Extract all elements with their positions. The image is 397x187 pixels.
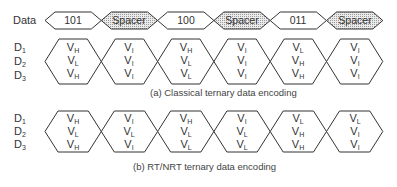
spacer-symbol: Spacer <box>220 14 264 26</box>
symbol-cell: VH VL VL <box>166 112 206 151</box>
symbol-cell: VH VL VH <box>53 41 93 80</box>
rail-label-d3: D3 <box>14 69 26 85</box>
spacer-cell: VI VI VI <box>222 41 262 80</box>
rtnrt-hexagons <box>45 111 383 152</box>
spacer-cell: VI VI VI <box>109 41 149 80</box>
rail-label-d3: D3 <box>14 138 26 154</box>
spacer-cell: VI VI VI <box>335 41 375 80</box>
spacer-cell: VI VL VI <box>109 112 149 151</box>
spacer-symbol: Spacer <box>107 14 151 26</box>
caption-classical: (a) Classical ternary data encoding <box>150 87 297 98</box>
symbol-cell: VL VH VH <box>278 112 318 151</box>
data-row-label: Data <box>13 14 36 26</box>
data-symbol: 011 <box>276 14 320 26</box>
spacer-cell: VI VL VL <box>222 112 262 151</box>
symbol-cell: VH VL VH <box>53 112 93 151</box>
ternary-encoding-figure: Data 101 Spacer 100 Spacer 011 Spacer D1… <box>0 0 397 187</box>
spacer-symbol: Spacer <box>333 14 377 26</box>
caption-rtnrt: (b) RT/NRT ternary data encoding <box>133 161 276 172</box>
data-symbol: 100 <box>164 14 208 26</box>
data-symbol: 101 <box>51 14 95 26</box>
spacer-cell: VL VI VI <box>335 112 375 151</box>
classical-hexagons <box>45 39 383 84</box>
symbol-cell: VH VL VL <box>166 41 206 80</box>
symbol-cell: VL VH VH <box>278 41 318 80</box>
